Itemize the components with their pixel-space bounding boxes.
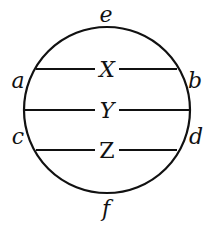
chord-x: X bbox=[36, 57, 177, 82]
chord-y: Y bbox=[24, 98, 190, 123]
chord-label-y: Y bbox=[100, 98, 117, 123]
diagram-canvas: X Y Z e a b c d f bbox=[0, 0, 211, 227]
point-label-c: c bbox=[12, 124, 24, 149]
chord-label-z: Z bbox=[99, 138, 114, 163]
point-label-b: b bbox=[188, 68, 202, 93]
chord-label-x: X bbox=[97, 57, 116, 82]
point-label-f: f bbox=[100, 196, 114, 221]
point-label-e: e bbox=[99, 2, 112, 27]
point-label-d: d bbox=[189, 124, 203, 149]
chord-z: Z bbox=[36, 138, 177, 163]
point-label-a: a bbox=[11, 68, 24, 93]
